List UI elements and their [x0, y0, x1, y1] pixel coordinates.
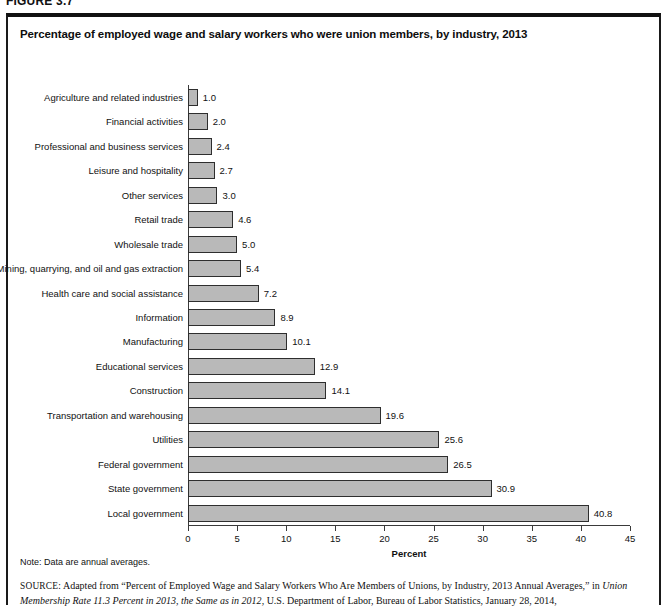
bar-value-label: 2.7 [220, 162, 233, 179]
bar-value-label: 2.4 [217, 138, 230, 155]
bar-row: Federal government26.5 [188, 452, 630, 476]
category-label: Financial activities [106, 113, 183, 130]
bar-row: State government30.9 [188, 476, 630, 500]
bar-row: Utilities25.6 [188, 427, 630, 451]
source-text-part1: Adapted from “Percent of Employed Wage a… [61, 580, 602, 591]
bar-row: Information8.9 [188, 305, 630, 329]
bar-value-label: 5.0 [242, 236, 255, 253]
bar-value-label: 4.6 [238, 211, 251, 228]
figure-panel: Percentage of employed wage and salary w… [6, 13, 661, 605]
bar-chart: Percent Agriculture and related industri… [8, 47, 659, 537]
bar-row: Mining, quarrying, and oil and gas extra… [188, 256, 630, 280]
bar-row: Manufacturing10.1 [188, 329, 630, 353]
category-label: Retail trade [134, 211, 183, 228]
bar [188, 260, 241, 277]
bar [188, 358, 315, 375]
bar-value-label: 25.6 [444, 431, 463, 448]
bar-row: Health care and social assistance7.2 [188, 281, 630, 305]
category-label: Federal government [98, 456, 183, 473]
x-axis-tick [335, 526, 336, 531]
bar-row: Professional and business services2.4 [188, 134, 630, 158]
x-axis-tick [384, 526, 385, 531]
x-axis-tick [188, 526, 189, 531]
bar [188, 138, 212, 155]
bar [188, 407, 381, 424]
category-label: Information [135, 309, 183, 326]
category-label: Leisure and hospitality [88, 162, 183, 179]
category-label: Agriculture and related industries [44, 89, 183, 106]
x-axis-tick-label: 35 [526, 533, 537, 544]
bar-row: Other services3.0 [188, 183, 630, 207]
x-axis-tick [630, 526, 631, 531]
bar-value-label: 2.0 [213, 113, 226, 130]
bar-value-label: 12.9 [320, 358, 339, 375]
bar-value-label: 5.4 [246, 260, 259, 277]
bar-value-label: 10.1 [292, 333, 311, 350]
bar-value-label: 7.2 [264, 285, 277, 302]
bar [188, 236, 237, 253]
bar-row: Wholesale trade5.0 [188, 232, 630, 256]
bar [188, 382, 326, 399]
category-label: State government [108, 480, 183, 497]
bar [188, 456, 448, 473]
x-axis-tick [237, 526, 238, 531]
bar [188, 285, 259, 302]
plot-area: Percent Agriculture and related industri… [188, 85, 630, 525]
bar-value-label: 30.9 [497, 480, 516, 497]
x-axis-tick-label: 20 [379, 533, 390, 544]
x-axis-tick-label: 15 [330, 533, 341, 544]
bar-value-label: 8.9 [280, 309, 293, 326]
bar-row: Financial activities2.0 [188, 109, 630, 133]
x-axis-tick-label: 40 [576, 533, 587, 544]
bar-row: Construction14.1 [188, 378, 630, 402]
source-label: SOURCE: [20, 581, 61, 591]
bar-row: Educational services12.9 [188, 354, 630, 378]
category-label: Manufacturing [123, 333, 183, 350]
bar [188, 309, 275, 326]
x-axis-tick [434, 526, 435, 531]
figure-number: FIGURE 3.7 [6, 0, 73, 8]
x-axis-line [188, 525, 630, 526]
category-label: Wholesale trade [114, 236, 183, 253]
bar-row: Leisure and hospitality2.7 [188, 158, 630, 182]
bar [188, 113, 208, 130]
x-axis-tick-label: 45 [625, 533, 636, 544]
bar [188, 211, 233, 228]
category-label: Health care and social assistance [41, 285, 183, 302]
bar-value-label: 19.6 [386, 407, 405, 424]
category-label: Educational services [96, 358, 183, 375]
bar [188, 480, 492, 497]
bar [188, 89, 198, 106]
bar-value-label: 14.1 [331, 382, 350, 399]
bar [188, 162, 215, 179]
bar [188, 431, 439, 448]
bar-row: Local government40.8 [188, 501, 630, 525]
bar [188, 505, 589, 522]
category-label: Local government [107, 505, 183, 522]
bar-row: Retail trade4.6 [188, 207, 630, 231]
x-axis-tick-label: 10 [281, 533, 292, 544]
bar-value-label: 3.0 [222, 187, 235, 204]
bar-value-label: 26.5 [453, 456, 472, 473]
x-axis-tick [532, 526, 533, 531]
bar [188, 333, 287, 350]
bar-row: Transportation and warehousing19.6 [188, 403, 630, 427]
bar [188, 187, 217, 204]
category-label: Other services [122, 187, 183, 204]
x-axis-tick [286, 526, 287, 531]
x-axis-tick-label: 5 [234, 533, 239, 544]
category-label: Professional and business services [35, 138, 183, 155]
x-axis-tick-label: 0 [185, 533, 190, 544]
chart-source: SOURCE: Adapted from “Percent of Employe… [20, 579, 650, 610]
category-label: Transportation and warehousing [47, 407, 183, 424]
bar-value-label: 1.0 [203, 89, 216, 106]
category-label: Construction [130, 382, 183, 399]
category-label: Mining, quarrying, and oil and gas extra… [0, 260, 183, 277]
x-axis-tick [483, 526, 484, 531]
x-axis-title: Percent [188, 548, 630, 559]
page-title: Percentage of employed wage and salary w… [8, 17, 659, 40]
category-label: Utilities [152, 431, 183, 448]
chart-note: Note: Data are annual averages. [20, 557, 150, 567]
x-axis-tick-label: 30 [477, 533, 488, 544]
bar-value-label: 40.8 [594, 505, 613, 522]
